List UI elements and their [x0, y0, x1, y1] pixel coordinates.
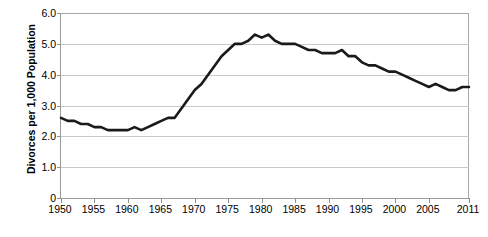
y-tick-label: 6.0 [22, 8, 56, 18]
y-tick-label: 0 [22, 193, 56, 203]
y-tick-label: 1.0 [22, 162, 56, 172]
y-tick-label: 2.0 [22, 131, 56, 141]
chart-page: Divorces per 1,000 Population 6.05.04.03… [0, 0, 488, 237]
x-axis-tick-labels: 1950195519601965197019751980198519901995… [60, 0, 480, 237]
y-tick-label: 4.0 [22, 70, 56, 80]
y-tick-label: 5.0 [22, 39, 56, 49]
y-tick-label: 3.0 [22, 101, 56, 111]
x-tick-label: 2011 [448, 203, 488, 215]
x-tick-label: 2005 [408, 203, 448, 215]
y-axis-tick-labels: 6.05.04.03.02.01.00 [18, 0, 56, 210]
